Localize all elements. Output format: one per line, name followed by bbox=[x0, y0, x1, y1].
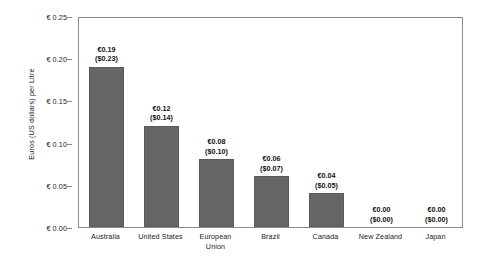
plot-area: €0.19($0.23)€0.12($0.14)€0.08($0.10)€0.0… bbox=[78, 17, 463, 228]
y-axis-ticks: € 0.25€ 0.20€ 0.15€ 0.10€ 0.05€ 0.00 bbox=[0, 0, 78, 266]
bar-value-usd: ($0.05) bbox=[299, 181, 354, 191]
bar-value-euro: €0.12 bbox=[152, 104, 170, 113]
y-axis-tick-label: € 0.10 bbox=[46, 139, 67, 148]
bar bbox=[89, 67, 124, 227]
bar-chart: Euros (US dollars) per Litre € 0.25€ 0.2… bbox=[0, 0, 486, 266]
y-axis-tick-mark bbox=[67, 59, 72, 60]
bar-value-usd: ($0.07) bbox=[244, 164, 299, 174]
bar-value-usd: ($0.00) bbox=[354, 215, 409, 225]
x-axis-category-label-line: Canada bbox=[298, 232, 353, 242]
y-axis-tick-label: € 0.20 bbox=[46, 55, 67, 64]
bar-value-label: €0.12($0.14) bbox=[134, 104, 189, 123]
x-axis-category-label: Brazil bbox=[243, 232, 298, 242]
bar bbox=[254, 176, 289, 227]
x-axis-category-label-line: Union bbox=[188, 242, 243, 252]
x-axis-category-label: Australia bbox=[78, 232, 133, 242]
bar-value-usd: ($0.00) bbox=[409, 215, 464, 225]
y-axis-tick-label: € 0.00 bbox=[46, 224, 67, 233]
x-axis-category-label-line: Australia bbox=[78, 232, 133, 242]
x-axis-category-label-line: Brazil bbox=[243, 232, 298, 242]
bar-value-euro: €0.19 bbox=[97, 45, 115, 54]
bar-value-euro: €0.06 bbox=[262, 154, 280, 163]
bar bbox=[144, 126, 179, 227]
x-axis-category-label-line: Japan bbox=[408, 232, 463, 242]
bar-value-usd: ($0.14) bbox=[134, 113, 189, 123]
bar bbox=[309, 193, 344, 227]
x-axis-category-label-line: European bbox=[188, 232, 243, 242]
y-axis-tick-label: € 0.15 bbox=[46, 97, 67, 106]
bar-value-label: €0.00($0.00) bbox=[354, 205, 409, 224]
bar-value-euro: €0.08 bbox=[207, 137, 225, 146]
bar-value-euro: €0.00 bbox=[427, 205, 445, 214]
bar-value-label: €0.08($0.10) bbox=[189, 137, 244, 156]
y-axis-tick-mark bbox=[67, 144, 72, 145]
x-axis-category-label: New Zealand bbox=[353, 232, 408, 242]
bar-value-usd: ($0.10) bbox=[189, 147, 244, 157]
y-axis-tick-mark bbox=[67, 17, 72, 18]
y-axis-tick-label: € 0.05 bbox=[46, 181, 67, 190]
bar-value-label: €0.00($0.00) bbox=[409, 205, 464, 224]
bar-value-label: €0.04($0.05) bbox=[299, 171, 354, 190]
x-axis-category-label: Japan bbox=[408, 232, 463, 242]
x-axis-category-label: United States bbox=[133, 232, 188, 242]
x-axis-category-label: Canada bbox=[298, 232, 353, 242]
x-axis-category-label-line: United States bbox=[133, 232, 188, 242]
x-axis-category-label-line: New Zealand bbox=[353, 232, 408, 242]
bar-value-euro: €0.04 bbox=[317, 171, 335, 180]
bar-value-label: €0.06($0.07) bbox=[244, 154, 299, 173]
bar-value-label: €0.19($0.23) bbox=[79, 45, 134, 64]
bar-value-usd: ($0.23) bbox=[79, 54, 134, 64]
x-axis-labels: AustraliaUnited StatesEuropeanUnionBrazi… bbox=[78, 232, 463, 262]
y-axis-tick-mark bbox=[67, 228, 72, 229]
y-axis-tick-mark bbox=[67, 101, 72, 102]
x-axis-category-label: EuropeanUnion bbox=[188, 232, 243, 252]
bar bbox=[199, 159, 234, 227]
y-axis-tick-mark bbox=[67, 186, 72, 187]
y-axis-tick-label: € 0.25 bbox=[46, 13, 67, 22]
bar-value-euro: €0.00 bbox=[372, 205, 390, 214]
